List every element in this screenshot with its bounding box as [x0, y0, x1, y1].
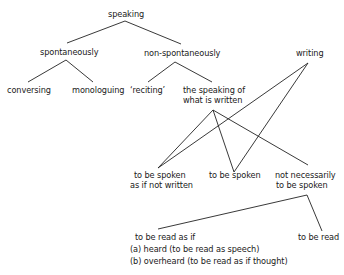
edge-written-as-if-not-written	[158, 110, 213, 168]
edge-spontaneously-conversing	[28, 60, 66, 82]
edge-not-necessarily-read-as-if	[158, 195, 307, 229]
node-monologuing: monologuing	[72, 85, 124, 95]
edge-written-not-necessarily	[213, 110, 308, 165]
edge-spontaneously-monologuing	[66, 60, 93, 82]
node-spoken-as-if-line1: to be spoken	[134, 170, 186, 180]
edge-written-to-be-spoken	[213, 110, 234, 172]
edge-nonspont-reciting	[148, 62, 175, 82]
node-not-necessarily-line1: not necessarily	[275, 170, 336, 180]
diagram-canvas: speaking spontaneously non-spontaneously…	[0, 0, 344, 275]
node-speaking: speaking	[108, 9, 144, 19]
node-read-as-if-line3: (b) overheard (to be read as if thought)	[130, 256, 288, 266]
node-spoken-as-if-line2: as if not written	[130, 180, 193, 190]
edge-nonspont-speaking-of-written	[175, 62, 212, 82]
edge-speaking-spontaneously	[67, 21, 125, 43]
node-to-be-spoken: to be spoken	[209, 170, 261, 180]
node-read-as-if-line2: (a) heard (to be read as speech)	[130, 244, 259, 254]
node-to-be-read: to be read	[298, 232, 339, 242]
node-spontaneously: spontaneously	[40, 47, 98, 57]
node-not-necessarily-line2: to be spoken	[276, 180, 328, 190]
node-writing: writing	[296, 48, 324, 58]
node-speaking-of-written-line2: what is written	[183, 95, 242, 105]
node-conversing: conversing	[7, 85, 51, 95]
node-reciting: ‘reciting’	[130, 85, 165, 95]
edge-speaking-non-spontaneously	[125, 21, 181, 44]
node-read-as-if-line1: to be read as if	[135, 232, 195, 242]
edge-not-necessarily-to-be-read	[307, 195, 322, 231]
node-non-spontaneously: non-spontaneously	[144, 48, 220, 58]
node-speaking-of-written-line1: the speaking of	[183, 85, 245, 95]
edge-writing-to-be-spoken	[234, 63, 308, 172]
